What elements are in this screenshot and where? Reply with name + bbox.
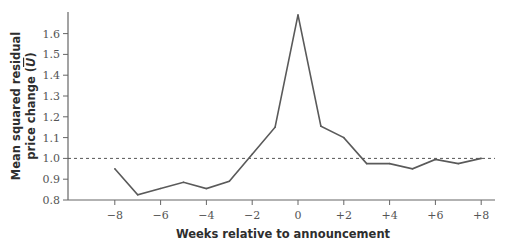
data-point	[320, 125, 322, 127]
y-tick-label: 1.6	[43, 28, 61, 41]
data-points	[114, 14, 482, 196]
y-axis-title-suffix: )	[24, 52, 38, 57]
data-point	[114, 168, 116, 170]
x-tick-label: −8	[107, 209, 123, 222]
y-tick-label: 0.9	[43, 173, 61, 186]
x-axis-title: Weeks relative to announcement	[176, 227, 391, 241]
chart: 0.80.91.01.11.21.31.41.51.6 −8−6−4−20+2+…	[0, 0, 505, 244]
x-tick-label: 0	[295, 209, 302, 222]
y-tick-label: 1.0	[43, 152, 61, 165]
x-tick-label: −2	[244, 209, 260, 222]
data-point	[160, 188, 162, 190]
y-tick-label: 1.4	[43, 69, 61, 82]
data-point	[183, 182, 185, 184]
data-point	[389, 163, 391, 165]
y-tick-label: 1.5	[43, 48, 61, 61]
y-tick-label: 1.2	[43, 111, 61, 124]
x-tick-label: +6	[427, 209, 443, 222]
x-tick-label: −6	[152, 209, 168, 222]
data-point	[274, 126, 276, 128]
data-point	[458, 163, 460, 165]
data-point	[251, 153, 253, 155]
data-point	[435, 159, 437, 161]
y-axis-title-line2: price change (U)	[24, 52, 38, 159]
x-tick-label: +4	[381, 209, 397, 222]
data-point	[343, 137, 345, 139]
data-point	[137, 194, 139, 196]
y-tick-label: 1.3	[43, 90, 61, 103]
y-tick-label: 0.8	[43, 194, 61, 207]
data-point	[206, 188, 208, 190]
y-axis-title-prefix: price change (	[24, 67, 38, 160]
data-point	[480, 158, 482, 160]
data-point	[366, 163, 368, 165]
data-point	[297, 14, 299, 16]
y-tick-label: 1.1	[43, 132, 61, 145]
x-tick-label: +8	[473, 209, 489, 222]
x-tick-label: −4	[198, 209, 214, 222]
y-axis-title: Mean squared residual price change (U)	[9, 32, 38, 180]
series-line	[115, 15, 481, 195]
y-ticks: 0.80.91.01.11.21.31.41.51.6	[43, 28, 69, 207]
x-tick-label: +2	[336, 209, 352, 222]
data-point	[229, 180, 231, 182]
data-point	[412, 168, 414, 170]
y-axis-title-line1: Mean squared residual	[9, 32, 23, 180]
x-ticks: −8−6−4−20+2+4+6+8	[107, 200, 490, 222]
